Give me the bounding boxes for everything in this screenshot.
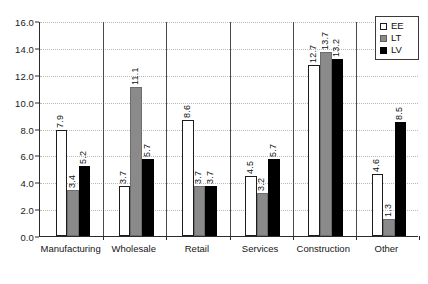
y-axis-tick-label: 6.0 bbox=[0, 151, 34, 162]
y-axis-tick-label: 0.0 bbox=[0, 232, 34, 243]
x-axis-category-label: Construction bbox=[297, 243, 350, 254]
x-axis-tick-mark bbox=[166, 236, 167, 240]
legend-swatch-icon bbox=[380, 47, 387, 54]
x-axis-tick-mark bbox=[230, 236, 231, 240]
bar-other-ee bbox=[372, 174, 384, 236]
x-axis-tick-mark bbox=[419, 236, 420, 240]
x-axis-category-label: Wholesale bbox=[112, 243, 156, 254]
y-axis-tick-label: 2.0 bbox=[0, 205, 34, 216]
bars-layer: 7.93.45.23.711.15.78.63.73.74.53.25.712.… bbox=[40, 22, 418, 236]
x-axis-category-label: Other bbox=[375, 243, 399, 254]
bar-chart: 0.02.04.06.08.010.012.014.016.0 7.93.45.… bbox=[0, 0, 428, 284]
x-axis-tick-mark bbox=[103, 236, 104, 240]
x-axis-tick-mark bbox=[293, 236, 294, 240]
x-axis-category-label: Manufacturing bbox=[40, 243, 100, 254]
bar-value-label: 8.5 bbox=[394, 107, 404, 120]
y-axis-tick-label: 4.0 bbox=[0, 178, 34, 189]
y-axis: 0.02.04.06.08.010.012.014.016.0 bbox=[0, 0, 34, 284]
y-axis-tick-label: 10.0 bbox=[0, 97, 34, 108]
x-axis-category-label: Retail bbox=[185, 243, 209, 254]
y-axis-tick-label: 16.0 bbox=[0, 17, 34, 28]
legend-swatch-icon bbox=[380, 35, 387, 42]
x-axis-category-label: Services bbox=[242, 243, 278, 254]
chart-legend: EELTLV bbox=[375, 16, 419, 60]
bar-group: 4.61.38.5 bbox=[40, 22, 419, 236]
y-axis-tick-label: 12.0 bbox=[0, 70, 34, 81]
legend-swatch-icon bbox=[380, 23, 387, 30]
bar-value-label: 4.6 bbox=[371, 159, 381, 172]
legend-item-ee[interactable]: EE bbox=[380, 20, 414, 32]
legend-label: LV bbox=[391, 45, 402, 55]
y-axis-tick-label: 14.0 bbox=[0, 43, 34, 54]
bar-other-lv bbox=[395, 122, 407, 236]
legend-item-lt[interactable]: LT bbox=[380, 32, 414, 44]
y-axis-tick-label: 8.0 bbox=[0, 124, 34, 135]
bar-other-lt bbox=[383, 219, 395, 236]
legend-label: LT bbox=[391, 33, 401, 43]
bar-value-label: 1.3 bbox=[383, 203, 393, 216]
legend-item-lv[interactable]: LV bbox=[380, 44, 414, 56]
x-axis: ManufacturingWholesaleRetailServicesCons… bbox=[39, 243, 418, 261]
plot-area: 7.93.45.23.711.15.78.63.73.74.53.25.712.… bbox=[39, 22, 418, 237]
legend-label: EE bbox=[391, 21, 404, 31]
x-axis-tick-mark bbox=[356, 236, 357, 240]
